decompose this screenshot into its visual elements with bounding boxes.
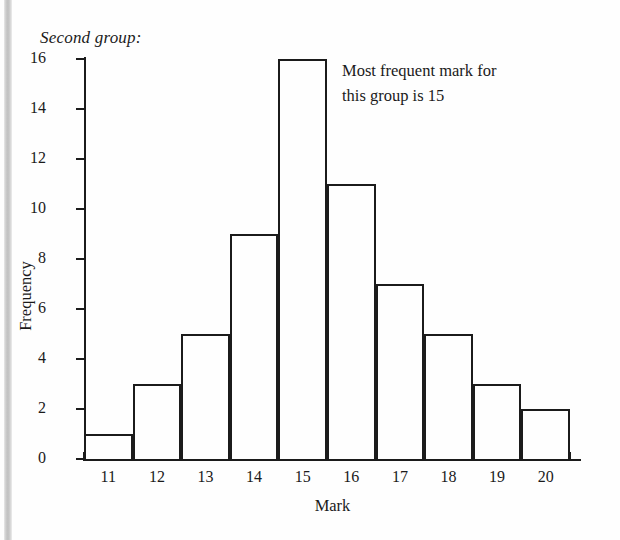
y-tick-label-wrap: 0 [0, 450, 46, 466]
y-tick-label-wrap: 16 [0, 50, 46, 66]
y-tick-label-wrap: 8 [0, 250, 46, 266]
y-tick-mark [76, 258, 85, 260]
histogram-bar [473, 384, 522, 461]
histogram-bar [278, 59, 327, 461]
histogram-bar [521, 409, 570, 461]
x-tick-label: 18 [429, 468, 469, 486]
y-tick-mark [76, 308, 85, 310]
y-tick-label: 2 [20, 400, 46, 416]
histogram-bar [230, 234, 279, 461]
y-tick-mark [76, 358, 85, 360]
x-tick-label: 12 [137, 468, 177, 486]
y-tick-label-wrap: 14 [0, 100, 46, 116]
x-tick-label: 17 [380, 468, 420, 486]
y-tick-label: 4 [20, 350, 46, 366]
histogram-bar [181, 334, 230, 461]
y-tick-label-wrap: 2 [0, 400, 46, 416]
y-tick-label: 16 [20, 50, 46, 66]
y-tick-mark [76, 108, 85, 110]
page-canvas: Second group: Most frequent mark for thi… [0, 0, 620, 540]
y-tick-mark [76, 408, 85, 410]
y-tick-label: 8 [20, 250, 46, 266]
x-tick-label: 20 [526, 468, 566, 486]
x-tick-label: 11 [88, 468, 128, 486]
x-tick-label: 14 [234, 468, 274, 486]
x-tick-label: 16 [331, 468, 371, 486]
y-tick-label: 14 [20, 100, 46, 116]
y-tick-label: 6 [20, 300, 46, 316]
x-tick-label: 15 [283, 468, 323, 486]
histogram-bar [424, 334, 473, 461]
y-tick-mark [76, 208, 85, 210]
y-tick-label-wrap: 12 [0, 150, 46, 166]
y-tick-label-wrap: 4 [0, 350, 46, 366]
y-tick-mark [76, 58, 85, 60]
plot-area: Mark Frequency 0246810121416 11121314151… [0, 0, 620, 540]
histogram-bar [327, 184, 376, 461]
histogram-bar [133, 384, 182, 461]
y-tick-mark [76, 158, 85, 160]
histogram-bar [376, 284, 425, 461]
histogram-bar [84, 434, 133, 461]
y-tick-label: 10 [20, 200, 46, 216]
histogram-figure: Second group: Most frequent mark for thi… [0, 0, 620, 540]
x-axis-title: Mark [84, 496, 581, 516]
x-tick-label: 13 [186, 468, 226, 486]
x-tick-label: 19 [477, 468, 517, 486]
y-tick-label: 12 [20, 150, 46, 166]
y-tick-label-wrap: 10 [0, 200, 46, 216]
y-tick-label: 0 [20, 450, 46, 466]
y-tick-label-wrap: 6 [0, 300, 46, 316]
